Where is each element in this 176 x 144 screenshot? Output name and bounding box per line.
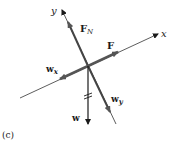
- weight-y-component-label: wy: [110, 94, 124, 106]
- weight-x-component-label: wx: [45, 64, 59, 76]
- weight-label: w: [71, 113, 80, 123]
- normal-force-label: FN: [80, 23, 94, 36]
- x-axis-label: x: [161, 28, 167, 39]
- applied-force-label: F: [107, 40, 114, 51]
- y-axis-label: y: [50, 5, 57, 16]
- weight-y-component-arrow: [88, 66, 110, 112]
- free-body-diagram: y x FN F wx wy w (c): [0, 0, 176, 144]
- weight-x-component-arrow: [60, 66, 88, 79]
- panel-label: (c): [2, 130, 14, 140]
- applied-force-arrow: [88, 52, 118, 66]
